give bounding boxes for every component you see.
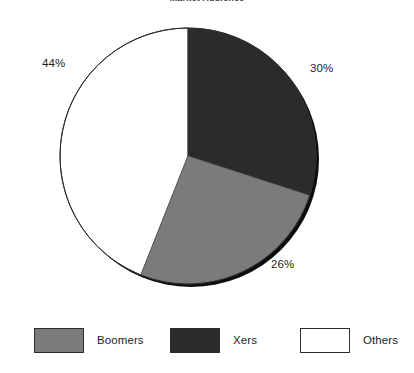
chart-legend: Boomers Xers Others: [0, 324, 414, 364]
legend-item-boomers[interactable]: Boomers: [34, 324, 144, 356]
legend-item-xers[interactable]: Xers: [170, 324, 257, 356]
legend-swatch-others: [300, 328, 350, 353]
legend-item-others[interactable]: Others: [300, 324, 398, 356]
chart-page: Market Audience 44% 30% 26% Boomers Xers: [0, 0, 414, 373]
pie-chart: 44% 30% 26%: [0, 0, 414, 305]
slice-label-xers: 30%: [310, 62, 333, 74]
legend-swatch-boomers: [34, 328, 84, 353]
legend-label-boomers: Boomers: [97, 334, 144, 346]
legend-swatch-xers: [170, 328, 220, 353]
legend-label-xers: Xers: [233, 334, 257, 346]
legend-label-others: Others: [363, 334, 398, 346]
slice-label-others: 44%: [42, 57, 65, 69]
pie-chart-svg: [0, 0, 414, 305]
slice-label-boomers: 26%: [271, 258, 294, 270]
